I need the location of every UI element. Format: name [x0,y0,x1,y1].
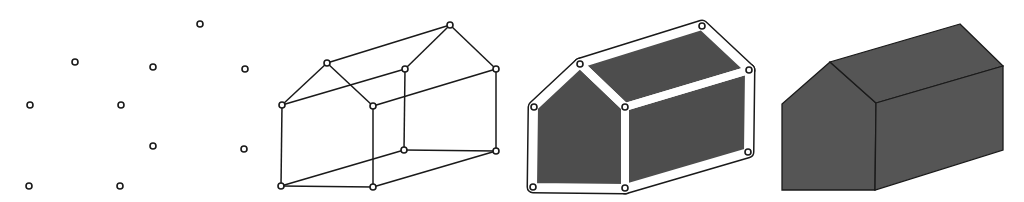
edge [404,150,496,151]
vertex [370,184,376,190]
vertex [402,66,408,72]
edge [373,69,496,106]
panel-wireframe [278,22,499,190]
vertex [150,64,156,70]
vertex [401,147,407,153]
vertex [577,61,583,67]
vertex [278,183,284,189]
vertex [370,103,376,109]
edge [281,186,373,187]
panel-solid-model [782,24,1003,190]
edge [373,151,496,187]
vertex [150,143,156,149]
vertex [531,104,537,110]
vertex [622,104,628,110]
vertex [197,21,203,27]
edge [450,25,496,69]
vertex [622,185,628,191]
vertex [324,60,330,66]
edge [404,69,405,150]
vertex [493,66,499,72]
vertex [279,102,285,108]
vertex [242,66,248,72]
panel-vertices [26,21,248,189]
panel-faces [530,23,752,191]
vertex [117,183,123,189]
edge [281,150,404,186]
vertex [447,22,453,28]
vertex [26,183,32,189]
vertex [241,146,247,152]
vertex [72,59,78,65]
vertex [530,184,536,190]
vertex [745,149,751,155]
vertex [746,67,752,73]
vertex [118,102,124,108]
edge [281,105,282,186]
vertex [699,23,705,29]
house-construction-diagram [0,0,1024,202]
diagram-canvas [0,0,1024,202]
vertex [27,102,33,108]
vertex [493,148,499,154]
